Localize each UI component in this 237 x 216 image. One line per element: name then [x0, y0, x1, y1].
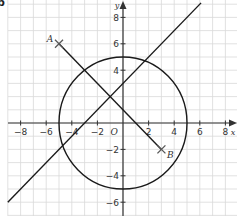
y-tick-label: −6: [106, 198, 120, 208]
x-tick-label: −2: [91, 127, 104, 137]
y-axis-label: y: [114, 1, 120, 10]
point-label-b: B: [166, 150, 174, 160]
x-tick-label: 6: [197, 127, 203, 137]
y-tick-label: 6: [113, 39, 119, 49]
point-label-a: A: [46, 34, 54, 44]
x-tick-label: −8: [14, 127, 28, 137]
part-label: b: [0, 0, 5, 9]
y-tick-label: −4: [106, 171, 120, 181]
y-tick-label: 8: [113, 13, 119, 23]
x-tick-label: −6: [40, 127, 54, 137]
coordinate-diagram: b −8−6−4−22468864−2−4−6OxyAB: [0, 0, 237, 216]
x-tick-label: 8: [223, 127, 229, 137]
y-tick-label: 4: [113, 66, 119, 76]
y-axis-arrow-icon: [120, 1, 127, 9]
y-tick-label: −2: [106, 145, 119, 155]
straight-line: [8, 3, 201, 202]
x-axis-arrow-icon: [229, 120, 237, 127]
x-tick-label: 4: [171, 127, 177, 137]
plot-area: −8−6−4−22468864−2−4−6OxyAB: [0, 0, 237, 216]
origin-label: O: [111, 127, 119, 137]
x-axis-label: x: [231, 128, 236, 137]
